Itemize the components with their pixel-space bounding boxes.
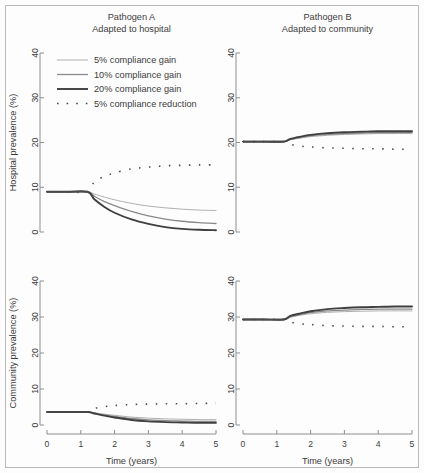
x-tick-label-2: 2 [112, 439, 117, 449]
x-tick-label-4: 4 [180, 439, 185, 449]
series-A-hospital-compliance-reduction [47, 165, 216, 193]
y-tick-label-30: 30 [30, 312, 40, 322]
x-tick-label-4: 4 [376, 439, 381, 449]
x-tick-label-0: 0 [241, 439, 246, 449]
y-tick-label-20: 20 [226, 138, 236, 148]
x-tick-label-5: 5 [410, 439, 415, 449]
y-tick-label-40: 40 [30, 276, 40, 286]
x-tick-label-2: 2 [308, 439, 313, 449]
panel-B-hospital: 010203040 [226, 48, 412, 234]
panel-B-community: 010203040012345Time (years) [226, 276, 414, 466]
x-tick-label-3: 3 [146, 439, 151, 449]
y-tick-label-0: 0 [30, 422, 40, 427]
y-tick-label-40: 40 [226, 48, 236, 58]
legend-label-0: 5% compliance gain [94, 55, 176, 65]
x-tick-label-3: 3 [342, 439, 347, 449]
legend-label-2: 20% compliance gain [94, 84, 181, 94]
figure-canvas: Pathogen AAdapted to hospitalPathogen BA… [0, 0, 424, 473]
y-tick-label-20: 20 [226, 348, 236, 358]
y-tick-label-40: 40 [226, 276, 236, 286]
y-tick-label-20: 20 [30, 138, 40, 148]
x-tick-label-0: 0 [45, 439, 50, 449]
y-tick-label-10: 10 [226, 182, 236, 192]
y-tick-label-30: 30 [226, 312, 236, 322]
panel-title-B-line1: Pathogen B [303, 12, 351, 22]
legend: 5% compliance gain10% compliance gain20%… [57, 55, 197, 109]
y-tick-label-10: 10 [30, 182, 40, 192]
legend-label-1: 10% compliance gain [94, 70, 181, 80]
y-axis-title-hospital: Hospital prevalence (%) [8, 94, 18, 192]
x-tick-label-1: 1 [274, 439, 279, 449]
figure-root: Pathogen AAdapted to hospitalPathogen BA… [0, 0, 424, 473]
series-A-hospital-5-compliance-gain [47, 192, 216, 211]
y-tick-label-30: 30 [226, 93, 236, 103]
panel-title-B-line2: Adapted to community [282, 24, 374, 34]
y-tick-label-0: 0 [226, 229, 236, 234]
series-A-community-compliance-reduction [47, 403, 216, 412]
y-tick-label-10: 10 [226, 384, 236, 394]
y-tick-label-0: 0 [226, 422, 236, 427]
x-axis-title: Time (years) [302, 456, 353, 466]
panel-title-A-line2: Adapted to hospital [92, 24, 171, 34]
y-axis-title-community: Community prevalence (%) [8, 298, 18, 409]
panel-A-community: 010203040Community prevalence (%)012345T… [8, 276, 219, 466]
panel-title-A-line1: Pathogen A [108, 12, 156, 22]
y-tick-label-30: 30 [30, 93, 40, 103]
x-tick-label-5: 5 [214, 439, 219, 449]
series-B-community-5-compliance-gain [243, 311, 412, 320]
y-tick-label-0: 0 [30, 229, 40, 234]
y-tick-label-20: 20 [30, 348, 40, 358]
y-tick-label-40: 40 [30, 48, 40, 58]
series-A-hospital-20-compliance-gain [47, 191, 216, 230]
x-tick-label-1: 1 [78, 439, 83, 449]
legend-label-3: 5% compliance reduction [94, 99, 197, 109]
panel-titles: Pathogen AAdapted to hospitalPathogen BA… [92, 12, 373, 34]
x-axis-title: Time (years) [106, 456, 157, 466]
y-tick-label-10: 10 [30, 384, 40, 394]
